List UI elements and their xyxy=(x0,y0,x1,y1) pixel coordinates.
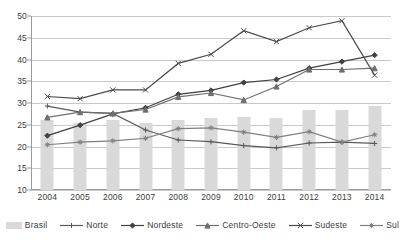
x-axis-tick-label: 2008 xyxy=(168,192,188,202)
data-point-marker xyxy=(176,137,181,142)
legend-item-brasil[interactable]: Brasil xyxy=(6,221,47,230)
gridline xyxy=(31,190,391,191)
y-axis-tick-label: 20 xyxy=(17,142,27,152)
y-axis-tick-label: 40 xyxy=(17,55,27,65)
x-axis-tick-label: 2012 xyxy=(299,192,319,202)
data-point-marker xyxy=(339,59,344,64)
x-axis-tick-label: 2005 xyxy=(70,192,90,202)
legend-item-norte[interactable]: Norte xyxy=(60,221,108,230)
data-point-marker xyxy=(143,136,148,141)
x-axis-labels: 2004200520062007200820092010201120122013… xyxy=(31,192,391,206)
legend-bar-swatch xyxy=(6,222,22,229)
x-axis-tick-label: 2007 xyxy=(136,192,156,202)
legend-label: Nordeste xyxy=(147,221,183,230)
legend-label: Sul xyxy=(386,221,399,230)
legend-label: Norte xyxy=(86,221,108,230)
legend-label: Centro-Oeste xyxy=(222,221,275,230)
y-axis-tick-label: 10 xyxy=(17,185,27,195)
data-point-marker xyxy=(45,115,50,120)
x-axis-tick-label: 2014 xyxy=(365,192,385,202)
data-point-marker xyxy=(45,103,50,108)
data-point-marker xyxy=(274,84,279,89)
data-point-marker xyxy=(274,77,279,82)
data-point-marker xyxy=(274,145,279,150)
x-axis-tick-label: 2010 xyxy=(234,192,254,202)
legend-line-swatch xyxy=(121,221,144,230)
data-point-marker xyxy=(339,140,344,145)
data-point-marker xyxy=(208,139,213,144)
legend-label: Sudeste xyxy=(315,221,348,230)
legend-line-swatch xyxy=(60,221,83,230)
data-point-marker xyxy=(372,132,377,137)
data-point-marker xyxy=(176,126,181,131)
data-point-marker xyxy=(372,141,377,146)
line-series-centro-oeste xyxy=(45,66,377,120)
y-axis-tick-label: 50 xyxy=(17,11,27,21)
legend-item-sul[interactable]: Sul xyxy=(360,221,399,230)
data-point-marker xyxy=(307,140,312,145)
y-axis-tick-label: 15 xyxy=(17,163,27,173)
data-point-marker xyxy=(143,127,148,132)
data-point-marker xyxy=(45,133,50,138)
line-series-group xyxy=(31,16,391,190)
legend-label: Brasil xyxy=(25,221,47,230)
data-point-marker xyxy=(77,123,82,128)
data-point-marker xyxy=(241,80,246,85)
x-axis-tick-label: 2013 xyxy=(332,192,352,202)
legend-item-sudeste[interactable]: Sudeste xyxy=(289,221,348,230)
series-line xyxy=(47,21,374,99)
x-axis-tick-label: 2009 xyxy=(201,192,221,202)
legend-line-swatch xyxy=(196,221,219,230)
x-axis-tick-label: 2004 xyxy=(38,192,58,202)
y-axis-tick-label: 25 xyxy=(17,120,27,130)
legend-item-nordeste[interactable]: Nordeste xyxy=(121,221,183,230)
x-axis-tick-label: 2006 xyxy=(103,192,123,202)
y-axis-tick-label: 45 xyxy=(17,33,27,43)
chart-legend: BrasilNorteNordesteCentro-OesteSudesteSu… xyxy=(0,216,405,234)
data-point-marker xyxy=(45,142,50,147)
data-point-marker xyxy=(307,129,312,134)
chart-container: 504540353025201510 200420052006200720082… xyxy=(0,0,405,246)
data-point-marker xyxy=(110,111,115,116)
legend-line-swatch xyxy=(360,221,383,230)
plot-area: 504540353025201510 xyxy=(31,16,391,190)
data-point-marker xyxy=(241,130,246,135)
y-axis-tick-label: 35 xyxy=(17,76,27,86)
data-point-marker xyxy=(77,140,82,145)
data-point-marker xyxy=(110,138,115,143)
legend-line-swatch xyxy=(289,221,312,230)
data-point-marker xyxy=(241,97,246,102)
data-point-marker xyxy=(274,135,279,140)
data-point-marker xyxy=(77,110,82,115)
legend-item-centro-oeste[interactable]: Centro-Oeste xyxy=(196,221,275,230)
data-point-marker xyxy=(372,73,377,78)
x-axis-tick-label: 2011 xyxy=(267,192,286,202)
data-point-marker xyxy=(241,143,246,148)
data-point-marker xyxy=(339,67,344,72)
data-point-marker xyxy=(372,53,377,58)
data-point-marker xyxy=(372,66,377,71)
y-axis-tick-label: 30 xyxy=(17,98,27,108)
data-point-marker xyxy=(208,125,213,130)
